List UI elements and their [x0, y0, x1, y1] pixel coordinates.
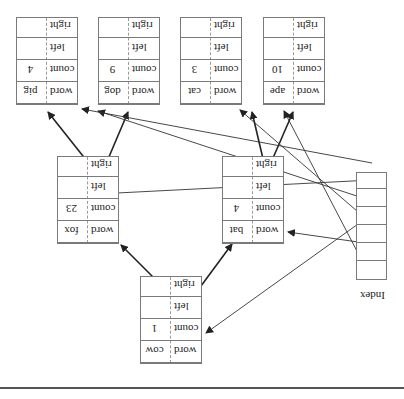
field-label-left: left — [170, 296, 201, 318]
index-cell — [357, 261, 386, 279]
field-label-count: count — [293, 59, 324, 81]
node-word: bat — [221, 220, 252, 242]
diagram-canvas: Index wordcow count1 left right wordbat … — [0, 0, 404, 399]
field-label-left: left — [293, 37, 324, 59]
index-label: Index — [360, 290, 385, 302]
node-word: cow — [139, 340, 170, 362]
field-label-word: word — [293, 81, 324, 103]
index-cell — [357, 243, 386, 261]
node-word: cat — [179, 81, 210, 103]
field-label-left: left — [252, 176, 283, 198]
field-label-right: right — [210, 15, 241, 37]
node-cat: wordcat count3 left right — [180, 17, 242, 105]
field-label-count: count — [252, 198, 283, 220]
field-label-right: right — [293, 15, 324, 37]
field-label-word: word — [46, 81, 77, 103]
node-count: 4 — [221, 198, 252, 220]
index-array — [356, 172, 387, 280]
node-count: 3 — [179, 59, 210, 81]
index-cell — [357, 171, 386, 189]
field-label-count: count — [210, 59, 241, 81]
node-word: pig — [15, 81, 46, 103]
field-label-word: word — [128, 81, 159, 103]
index-cell — [357, 207, 386, 225]
node-bat: wordbat count4 left right — [222, 156, 284, 244]
field-label-right: right — [128, 15, 159, 37]
horizontal-rule — [0, 387, 404, 389]
field-label-word: word — [87, 220, 118, 242]
field-label-word: word — [252, 220, 283, 242]
node-cow: wordcow count1 left right — [140, 276, 202, 364]
node-dog: worddog count9 left right — [98, 17, 160, 105]
node-count: 9 — [97, 59, 128, 81]
field-label-right: right — [87, 154, 118, 176]
index-cell — [357, 225, 386, 243]
field-label-right: right — [170, 274, 201, 296]
node-pig: wordpig count4 left right — [16, 17, 78, 105]
node-count: 23 — [56, 198, 87, 220]
field-label-count: count — [128, 59, 159, 81]
node-count: 4 — [15, 59, 46, 81]
field-label-right: right — [252, 154, 283, 176]
field-label-count: count — [170, 318, 201, 340]
node-ape: wordape count10 left right — [263, 17, 325, 105]
node-word: ape — [262, 81, 293, 103]
field-label-left: left — [87, 176, 118, 198]
field-label-left: left — [46, 37, 77, 59]
field-label-count: count — [46, 59, 77, 81]
node-count: 10 — [262, 59, 293, 81]
node-word: dog — [97, 81, 128, 103]
node-count: 1 — [139, 318, 170, 340]
field-label-left: left — [210, 37, 241, 59]
field-label-word: word — [170, 340, 201, 362]
index-cell — [357, 189, 386, 207]
field-label-word: word — [210, 81, 241, 103]
node-word: fox — [56, 220, 87, 242]
field-label-count: count — [87, 198, 118, 220]
field-label-right: right — [46, 15, 77, 37]
node-fox: wordfox count23 left right — [57, 156, 119, 244]
field-label-left: left — [128, 37, 159, 59]
